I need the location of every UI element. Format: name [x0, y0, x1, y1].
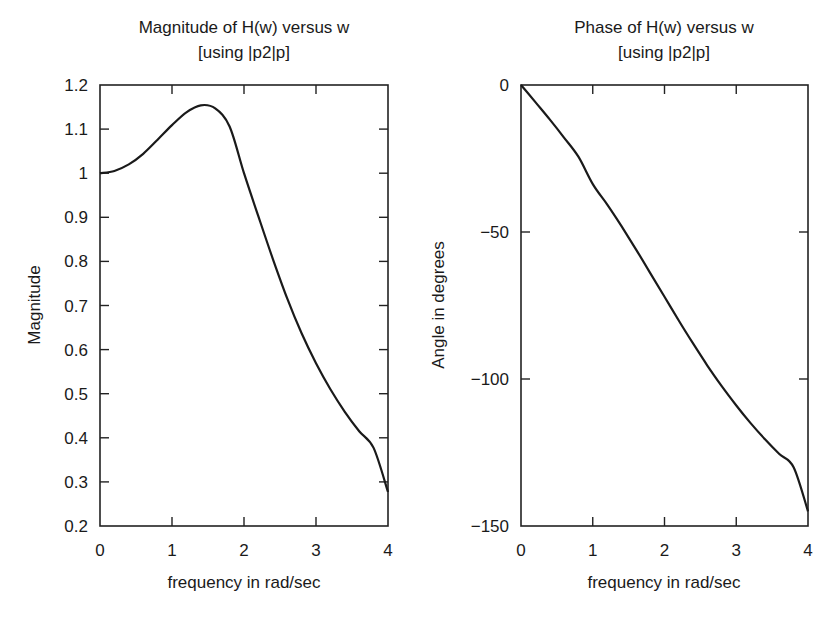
phase-x-tick-label: 0: [516, 541, 525, 560]
magnitude-y-tick-label: 0.8: [64, 252, 88, 271]
phase-x-tick-label: 1: [588, 541, 597, 560]
phase-y-tick-label: −50: [480, 223, 509, 242]
magnitude-y-tick-label: 0.7: [64, 297, 88, 316]
magnitude-plot: Magnitude of H(w) versus w [using |p2|p]…: [25, 18, 393, 592]
phase-axes-box: [521, 85, 808, 526]
phase-y-tick-label: −100: [471, 370, 509, 389]
phase-y-label: Angle in degrees: [429, 241, 448, 369]
magnitude-x-tick-label: 2: [239, 541, 248, 560]
phase-x-ticks: 01234: [516, 85, 812, 560]
phase-y-tick-label: −150: [471, 517, 509, 536]
magnitude-y-tick-label: 0.2: [64, 517, 88, 536]
magnitude-y-tick-label: 0.9: [64, 208, 88, 227]
phase-x-label: frequency in rad/sec: [587, 573, 741, 592]
phase-plot: Phase of H(w) versus w [using |p2|p] −15…: [429, 18, 813, 592]
phase-x-tick-label: 3: [732, 541, 741, 560]
phase-x-tick-label: 4: [803, 541, 812, 560]
magnitude-y-tick-label: 0.3: [64, 473, 88, 492]
magnitude-y-tick-label: 0.4: [64, 429, 88, 448]
magnitude-y-ticks: 0.20.30.40.50.60.70.80.911.11.2: [64, 76, 388, 536]
magnitude-x-label: frequency in rad/sec: [167, 573, 321, 592]
magnitude-y-tick-label: 0.5: [64, 385, 88, 404]
figure: Magnitude of H(w) versus w [using |p2|p]…: [0, 0, 831, 620]
phase-subtitle: [using |p2|p]: [618, 43, 710, 62]
magnitude-curve: [100, 105, 388, 492]
magnitude-title: Magnitude of H(w) versus w: [139, 18, 350, 37]
phase-title: Phase of H(w) versus w: [574, 18, 754, 37]
magnitude-axes-box: [100, 85, 388, 526]
magnitude-y-tick-label: 1.1: [64, 120, 88, 139]
phase-curve: [521, 85, 808, 511]
phase-x-tick-label: 2: [660, 541, 669, 560]
magnitude-x-tick-label: 0: [95, 541, 104, 560]
magnitude-y-tick-label: 0.6: [64, 341, 88, 360]
magnitude-y-tick-label: 1: [79, 164, 88, 183]
magnitude-x-tick-label: 3: [311, 541, 320, 560]
magnitude-y-tick-label: 1.2: [64, 76, 88, 95]
phase-y-tick-label: 0: [500, 76, 509, 95]
magnitude-y-label: Magnitude: [25, 265, 44, 344]
magnitude-x-tick-label: 1: [167, 541, 176, 560]
magnitude-x-tick-label: 4: [383, 541, 392, 560]
magnitude-subtitle: [using |p2|p]: [198, 43, 290, 62]
